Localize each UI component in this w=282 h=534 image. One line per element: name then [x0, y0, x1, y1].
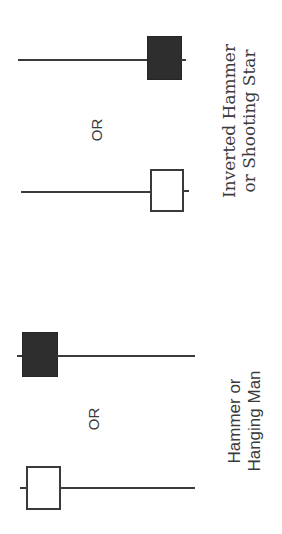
label-line-2: or Shooting Star	[239, 21, 259, 221]
upper-shadow	[18, 59, 148, 61]
or-separator-top: OR	[88, 115, 106, 145]
upper-shadow	[21, 191, 151, 193]
label-inverted-hammer: Inverted Hammer or Shooting Star	[219, 21, 261, 221]
or-separator-bottom: OR	[85, 404, 103, 434]
candle-body-dark	[147, 36, 182, 80]
lower-shadow	[57, 355, 195, 357]
candle-body-hollow	[26, 466, 61, 510]
label-line-1: Inverted Hammer	[219, 21, 239, 221]
lower-shadow-tick	[181, 59, 186, 61]
label-line-2: Hanging Man	[245, 361, 265, 481]
label-hammer: Hammer or Hanging Man	[225, 361, 267, 481]
lower-shadow	[60, 487, 195, 489]
lower-shadow-tick	[183, 190, 189, 192]
label-line-1: Hammer or	[225, 361, 245, 481]
candlestick-diagram: OR Inverted Hammer or Shooting Star OR H…	[0, 0, 282, 534]
candle-body-hollow	[150, 169, 184, 212]
candle-body-dark	[22, 332, 58, 377]
